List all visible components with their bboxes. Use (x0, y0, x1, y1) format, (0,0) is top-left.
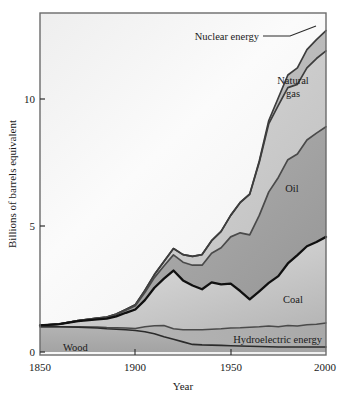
series-label-natural-gas-line1: Natural (277, 75, 309, 86)
y-tick-label-10: 10 (24, 93, 36, 105)
x-tick-label-1950: 1950 (220, 361, 243, 373)
x-tick-label-1900: 1900 (124, 361, 147, 373)
series-label-nuclear-energy: Nuclear energy (195, 31, 260, 42)
series-label-wood: Wood (63, 342, 89, 353)
x-axis-title: Year (173, 380, 194, 392)
y-axis-title: Billions of barrels equivalent (6, 120, 18, 248)
series-label-oil: Oil (285, 183, 299, 194)
series-label-natural-gas-line2: gas (286, 88, 300, 99)
series-label-hydroelectric-energy: Hydroelectric energy (233, 334, 322, 345)
stacked-area-chart: 0 5 10 1850 1900 1950 2000 Year Billions… (0, 0, 346, 399)
x-tick-label-1850: 1850 (29, 361, 52, 373)
y-tick-label-5: 5 (30, 220, 36, 232)
x-tick-label-2000: 2000 (314, 361, 337, 373)
y-tick-label-0: 0 (30, 346, 36, 358)
series-label-coal: Coal (283, 294, 303, 305)
energy-consumption-chart-figure: 0 5 10 1850 1900 1950 2000 Year Billions… (0, 0, 346, 399)
